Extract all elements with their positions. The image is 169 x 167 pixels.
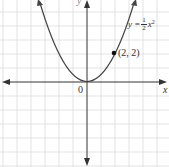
equation-label: y = 1 2 x 2 xyxy=(128,17,155,32)
point-label: (2, 2) xyxy=(118,48,140,58)
equation-exponent: 2 xyxy=(152,19,155,25)
y-axis-label: y xyxy=(77,0,81,6)
equation-fraction: 1 2 xyxy=(141,17,147,32)
fraction-denominator: 2 xyxy=(142,25,146,32)
y-axis-up-arrow-icon xyxy=(84,0,90,8)
point-2-2-marker xyxy=(112,51,117,56)
origin-label: 0 xyxy=(78,85,83,95)
curve-right-arrow-icon xyxy=(131,0,137,6)
y-axis-down-arrow-icon xyxy=(84,158,90,166)
equation-lhs: y = xyxy=(128,20,140,29)
curve-left-arrow-icon xyxy=(37,0,43,6)
x-axis-label: x xyxy=(163,85,167,95)
